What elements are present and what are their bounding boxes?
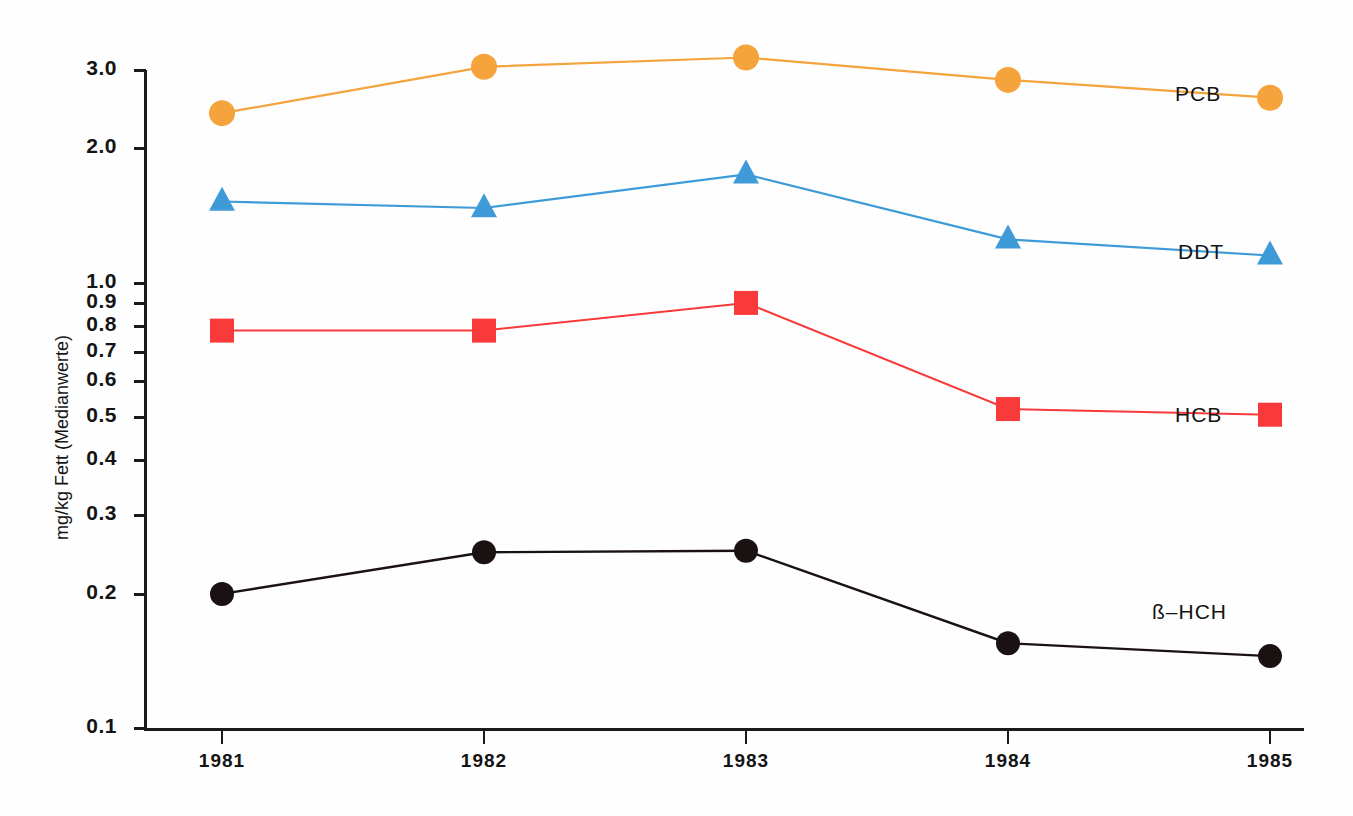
data-point-marker [733, 45, 759, 71]
series-line-ddt [222, 174, 1270, 255]
series-label-bhch: ß–HCH [1152, 600, 1227, 624]
series-label-pcb: PCB [1175, 82, 1221, 106]
data-point-marker [1257, 85, 1283, 111]
data-point-marker [996, 631, 1020, 655]
data-point-marker [1258, 644, 1282, 668]
series-label-ddt: DDT [1178, 240, 1224, 264]
data-point-marker [995, 67, 1021, 93]
series-label-hcb: HCB [1175, 403, 1222, 427]
series-line-hch [222, 551, 1270, 656]
data-point-marker [471, 193, 497, 217]
data-point-marker [1258, 403, 1282, 427]
series-plot-area [0, 0, 1353, 816]
data-point-marker [471, 54, 497, 80]
data-point-marker [209, 100, 235, 126]
data-point-marker [210, 319, 234, 343]
data-point-marker [733, 159, 759, 183]
data-point-marker [472, 540, 496, 564]
data-point-marker [1257, 241, 1283, 265]
data-point-marker [209, 187, 235, 211]
data-point-marker [210, 582, 234, 606]
data-point-marker [472, 319, 496, 343]
data-point-marker [996, 397, 1020, 421]
data-point-marker [734, 291, 758, 315]
series-line-hcb [222, 303, 1270, 415]
data-point-marker [734, 539, 758, 563]
chart-canvas: mg/kg Fett (Medianwerte) 3.02.01.00.90.8… [0, 0, 1353, 816]
